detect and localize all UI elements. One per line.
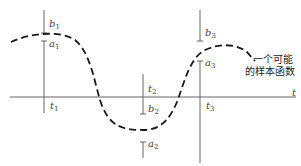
a2-label: a2 bbox=[148, 139, 158, 151]
t3-label: t3 bbox=[206, 101, 215, 113]
b3-label: b3 bbox=[205, 28, 216, 40]
a1-label: a1 bbox=[49, 39, 59, 51]
sample-function-curve bbox=[11, 34, 255, 130]
curve-annotation-line1: 一个可能 bbox=[253, 54, 293, 66]
b2-label: b2 bbox=[148, 104, 159, 116]
t1-label: t1 bbox=[50, 101, 59, 113]
t2-label: t2 bbox=[148, 84, 157, 96]
curve-annotation-line2: 的样本函数 bbox=[245, 66, 295, 78]
a3-label: a3 bbox=[205, 58, 215, 70]
sample-function-diagram: t t1 t2 t3 b1 b2 b3 a1 a2 a3 一个可能 的样本函数 bbox=[0, 0, 301, 166]
b1-label: b1 bbox=[49, 19, 60, 31]
time-axis-label: t bbox=[292, 88, 296, 98]
